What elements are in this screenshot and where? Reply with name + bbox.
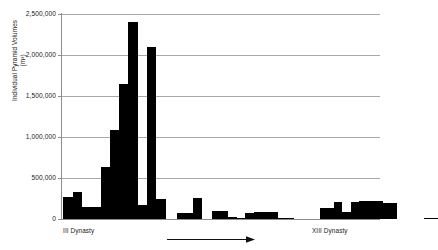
y-tick-label-2500000: 2,500,000 [26,10,56,17]
bar [228,217,237,219]
time-direction-arrow-icon [167,236,255,243]
bar [73,192,82,219]
y-tick-mark-0 [58,219,62,220]
bar [342,212,351,219]
bar [334,202,342,219]
bar [424,218,438,219]
bar [63,197,73,219]
bar [245,213,254,219]
bar [237,218,245,219]
x-tick-label-xiii-dynasty: XIII Dynasty [312,227,348,234]
bar [156,199,166,219]
y-axis-title-line1: Individual Pyramid Volumes [11,20,18,101]
bar [376,201,383,219]
bar [383,203,397,219]
bar [92,207,101,219]
y-tick-label-500000: 500,000 [31,174,56,181]
bar [359,201,367,219]
bar [128,22,138,219]
y-axis-title: Individual Pyramid Volumes (m³) [11,0,28,135]
bar [101,167,110,219]
bar [193,198,202,219]
bar [351,202,359,219]
y-tick-label-1000000: 1,000,000 [26,133,56,140]
y-tick-label-1500000: 1,500,000 [26,92,56,99]
bar [320,208,334,219]
bar [212,211,228,219]
gridline-0 [62,219,380,220]
bar [177,213,193,219]
bar [82,207,92,219]
bar [254,212,278,219]
bar [138,205,147,219]
bar [147,47,156,219]
x-tick-label-iii-dynasty: III Dynasty [63,227,94,234]
bar [110,130,119,219]
y-tick-label-0: 0 [52,215,56,222]
y-tick-label-2000000: 2,000,000 [26,51,56,58]
bar [278,218,294,219]
bar [367,201,376,219]
bar [119,84,128,219]
y-axis-title-line2: (m³) [19,0,27,135]
bar-series [62,14,380,219]
